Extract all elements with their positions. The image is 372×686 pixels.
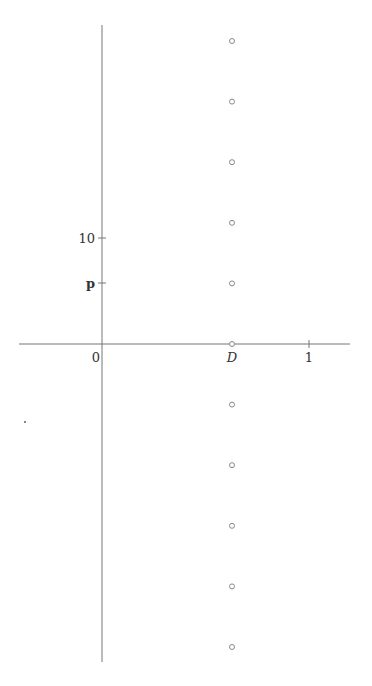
x-label-1: 1: [305, 350, 313, 365]
marker-circle: [230, 220, 235, 225]
marker-circle: [230, 281, 235, 286]
marker-column: [230, 39, 235, 650]
stray-dot: [24, 421, 26, 423]
x-label-0: 0: [92, 350, 100, 365]
marker-circle: [230, 402, 235, 407]
diagram-canvas: 0 D 1 10 p: [0, 0, 372, 686]
marker-circle: [230, 584, 235, 589]
y-label-p: p: [86, 276, 95, 291]
marker-circle: [230, 160, 235, 165]
marker-circle: [230, 645, 235, 650]
marker-circle: [230, 523, 235, 528]
marker-circle: [230, 463, 235, 468]
y-label-10: 10: [78, 231, 95, 246]
marker-circle: [230, 342, 235, 347]
marker-circle: [230, 99, 235, 104]
x-label-D: D: [226, 350, 238, 365]
marker-circle: [230, 39, 235, 44]
